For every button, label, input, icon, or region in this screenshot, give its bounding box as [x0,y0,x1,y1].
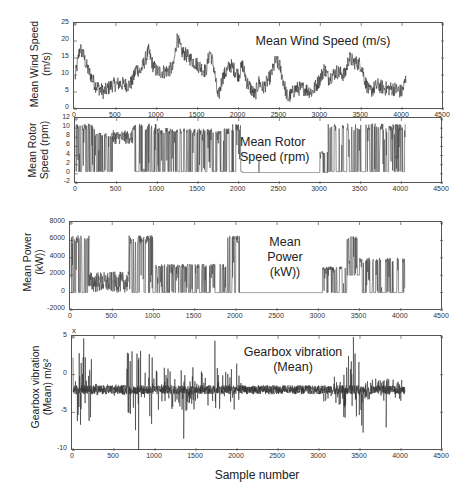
y-tick-label: 0 [37,369,67,376]
x-tick-label: 2500 [261,312,291,319]
y-tick-label: 10 [40,122,70,129]
y-tick-label: 15 [39,52,69,59]
y-tick-label: 6000 [35,234,65,241]
title-line: Mean Wind Speed (m/s) [248,34,398,49]
y-tick-label: 2000 [35,269,65,276]
y-tick-label: 6 [40,140,70,147]
y-tick-label: 8 [40,131,70,138]
x-tick-label: 3500 [345,185,375,192]
x-tick-label: 2000 [220,312,250,319]
x-tick-label: 3000 [303,452,333,459]
x-tick-label: 0 [57,452,87,459]
x-tick-label: 2500 [263,111,293,118]
wind-speed-title: Mean Wind Speed (m/s) [248,34,398,49]
y-tick-label: 8000 [35,217,65,224]
y-tick-label: 20 [39,35,69,42]
ylabel-line: (Mean) m/s² [41,332,53,442]
x-tick-label: 1000 [141,111,171,118]
x-tick-label: 1500 [180,452,210,459]
x-tick-label: 3000 [302,312,332,319]
x-tick-label: 1500 [182,185,212,192]
data-series-line [71,236,405,293]
x-tick-label: 4500 [426,185,456,192]
x-tick-label: 500 [98,452,128,459]
y-tick-label: 0 [35,287,65,294]
x-tick-label: 1000 [141,185,171,192]
x-tick-label: 0 [55,312,85,319]
ylabel-line: Mean Wind Speed [28,14,40,114]
x-tick-label: 1500 [182,111,212,118]
x-tick-label: 1500 [179,312,209,319]
ylabel-line: Gearbox vibration [29,332,41,442]
y-tick-label: 5 [39,86,69,93]
x-tick-label: 500 [96,312,126,319]
title-line: Speed (rpm) [240,150,330,165]
x-tick-label: 2000 [223,185,253,192]
y-tick-label: 10 [39,69,69,76]
x-tick-label: 3000 [304,111,334,118]
x-tick-label: 2000 [221,452,251,459]
gearbox-ylabel: Gearbox vibration (Mean) m/s² [29,332,53,442]
rotor-speed-title: Mean Rotor Speed (rpm) [240,135,330,165]
title-line: (Mean) [238,360,348,375]
y-tick-label: 12 [40,113,70,120]
y-tick-label: 4 [40,150,70,157]
x-tick-label: 2500 [263,185,293,192]
x-tick-label: 1000 [139,452,169,459]
x-tick-label: 2500 [262,452,292,459]
y-tick-label: 0 [39,103,69,110]
x-tick-label: 500 [100,111,130,118]
wind-speed-ylabel: Mean Wind Speed (m/s) [28,14,52,114]
x-tick-label: 3500 [344,452,374,459]
y-tick-label: -10 [37,444,67,451]
title-line: Gearbox vibration [238,345,348,360]
ylabel-line: Mean Power [21,217,33,307]
x-tick-label: 4000 [385,312,415,319]
y-tick-label: 4000 [35,252,65,259]
x-tick-label: 4000 [385,185,415,192]
y-tick-label: 25 [39,18,69,25]
x-tick-label: 4500 [427,111,457,118]
x-tick-label: 500 [101,185,131,192]
y-tick-label: -5 [37,406,67,413]
x-tick-label: 4500 [426,452,456,459]
ylabel-line: (m/s) [40,14,52,114]
x-tick-label: 4000 [386,111,416,118]
x-axis-label: Sample number [157,468,357,482]
x-tick-label: 3000 [304,185,334,192]
y-tick-label: -2000 [35,304,65,311]
title-line: Mean [255,235,315,250]
y-tick-label: 2 [40,159,70,166]
gearbox-title: Gearbox vibration (Mean) [238,345,348,375]
power-title: Mean Power (kW)) [255,235,315,280]
x-tick-label: 1000 [137,312,167,319]
title-line: Mean Rotor [240,135,330,150]
ylabel-line: Mean Rotor [26,105,38,195]
x-tick-label: 4000 [385,452,415,459]
y-tick-label: 5 [37,331,67,338]
title-line: Power [255,250,315,265]
x-tick-label: 3500 [344,312,374,319]
x-tick-label: 2000 [223,111,253,118]
y-tick-label: -2 [40,177,70,184]
x-tick-label: 4500 [426,312,456,319]
title-line: (kW)) [255,265,315,280]
x-tick-label: 0 [60,185,90,192]
x-tick-label: 3500 [345,111,375,118]
y-tick-label: 0 [40,168,70,175]
